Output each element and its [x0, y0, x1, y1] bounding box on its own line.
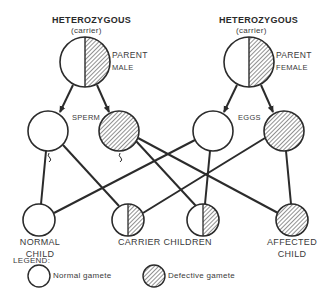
female-parent-title: HETEROZYGOUS	[219, 15, 298, 25]
line-egg-defective-to-affected-child	[286, 151, 291, 204]
arrow-female-to-egg-normal	[224, 85, 237, 112]
carrier-children-label: CARRIER CHILDREN	[118, 236, 212, 248]
line-sperm-normal-to-normal-child	[41, 151, 46, 204]
affected-child-line2: CHILD	[262, 248, 322, 260]
legend-normal-icon	[28, 265, 50, 287]
male-parent-sex: MALE	[112, 63, 134, 72]
sperm-label: SPERM	[72, 113, 100, 122]
legend-normal-label: Normal gamete	[53, 271, 112, 280]
sperm-normal-circle	[28, 111, 68, 162]
normal-child-line1: NORMAL	[10, 236, 70, 248]
affected-child-label: AFFECTED CHILD	[262, 224, 322, 260]
legend-defective-label: Defective gamete	[168, 271, 235, 280]
normal-child-label: NORMAL CHILD	[10, 224, 70, 260]
egg-normal-circle	[193, 111, 233, 151]
male-parent-subtitle: (carrier)	[71, 26, 102, 35]
female-parent-sex: FEMALE	[276, 63, 308, 72]
sperm-defective-circle	[99, 111, 139, 162]
male-parent-role: PARENT	[112, 50, 148, 60]
parent-male-circle	[60, 37, 110, 87]
arrow-female-to-egg-defective	[261, 85, 273, 112]
arrow-male-to-sperm-defective	[97, 85, 109, 112]
affected-child-line1: AFFECTED	[262, 236, 322, 248]
carrier-child-2-circle	[187, 204, 219, 236]
legend-title: LEGEND:	[13, 256, 50, 265]
parent-female-circle	[224, 37, 274, 87]
line-sperm-normal-to-carrier-child-1	[63, 145, 119, 206]
line-egg-normal-to-carrier-child-2	[205, 151, 210, 204]
legend-defective-icon	[143, 265, 165, 287]
male-parent-title: HETEROZYGOUS	[52, 15, 131, 25]
parent-arrows	[60, 85, 273, 112]
egg-defective-circle	[264, 111, 304, 151]
eggs-label: EGGS	[238, 113, 261, 122]
female-parent-role: PARENT	[276, 50, 312, 60]
female-parent-subtitle: (carrier)	[236, 26, 267, 35]
line-sperm-defective-to-carrier-child-2	[136, 141, 196, 206]
arrow-male-to-sperm-normal	[60, 85, 73, 112]
connection-lines	[41, 138, 291, 213]
carrier-child-1-circle	[112, 204, 144, 236]
